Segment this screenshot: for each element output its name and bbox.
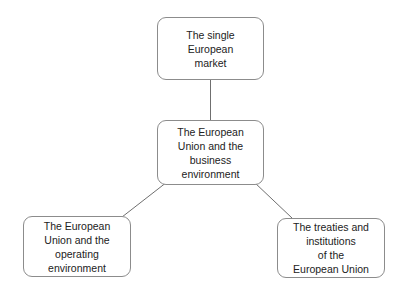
node-single-market[interactable]: The single European market [157, 17, 264, 80]
node-eu-operating-environment[interactable]: The European Union and the operating env… [23, 216, 131, 277]
node-treaties-institutions-label: The treaties and institutions of the Eur… [289, 220, 373, 276]
connector-eu-business-to-operating [122, 182, 167, 217]
connector-eu-business-to-treaties [254, 182, 292, 218]
node-eu-operating-environment-label: The European Union and the operating env… [40, 219, 115, 275]
node-single-market-label: The single European market [182, 28, 238, 70]
node-treaties-institutions[interactable]: The treaties and institutions of the Eur… [277, 218, 385, 278]
node-eu-business-environment-label: The European Union and the business envi… [173, 125, 248, 181]
node-eu-business-environment[interactable]: The European Union and the business envi… [157, 120, 264, 185]
diagram-canvas: The single European market The European … [0, 0, 403, 293]
